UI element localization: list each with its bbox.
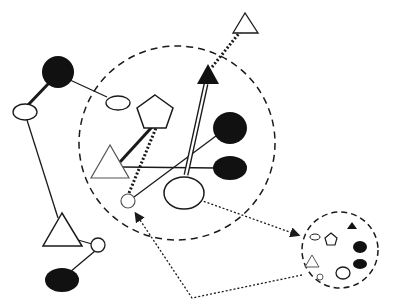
inset-white-triangle bbox=[305, 255, 319, 267]
edge-M4-M7 bbox=[186, 84, 206, 175]
node-M3-white-circle bbox=[121, 194, 135, 208]
diagram-canvas bbox=[0, 0, 393, 308]
node-E1-triangle bbox=[233, 13, 258, 33]
edge-M7-E1 bbox=[212, 32, 240, 67]
main-cluster-boundary bbox=[79, 46, 275, 240]
node-L2-white-ellipse bbox=[13, 104, 37, 120]
inset-pentagon bbox=[325, 233, 337, 245]
edge-L2-L4 bbox=[27, 120, 58, 218]
arrow-inset-to-M3 bbox=[136, 214, 302, 298]
edge-L1-L2 bbox=[28, 82, 50, 105]
node-M6-black-ellipse bbox=[213, 156, 247, 180]
inset-black-ellipse-2 bbox=[353, 259, 367, 269]
node-L3-white-ellipse bbox=[106, 96, 130, 110]
edge-L5-L6 bbox=[70, 251, 95, 272]
node-L1-black-circle bbox=[42, 56, 74, 88]
inset-black-triangle bbox=[347, 222, 357, 229]
arrow-M4-to-inset bbox=[200, 200, 298, 235]
edge-M2-M1 bbox=[120, 127, 152, 162]
node-M2-triangle bbox=[91, 145, 129, 178]
inset-white-ellipse-1 bbox=[310, 234, 320, 240]
node-L6-black-ellipse bbox=[45, 268, 79, 292]
edge-L1-L3 bbox=[70, 80, 107, 97]
node-M1-pentagon bbox=[137, 95, 173, 128]
inset-white-ellipse-2 bbox=[336, 267, 350, 279]
node-L5-white-circle bbox=[91, 238, 105, 252]
node-M5-black-ellipse bbox=[213, 112, 247, 144]
node-M4-white-ellipse bbox=[164, 177, 204, 209]
edge-M2-M6 bbox=[122, 167, 216, 168]
inset-white-circle bbox=[317, 274, 323, 280]
node-M7-black-triangle bbox=[197, 64, 219, 84]
inset-black-ellipse-1 bbox=[353, 241, 367, 253]
node-L4-triangle bbox=[43, 213, 82, 246]
